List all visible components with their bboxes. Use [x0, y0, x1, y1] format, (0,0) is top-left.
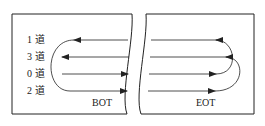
left-panel-frame	[12, 14, 132, 114]
track-label: 1 道	[27, 35, 45, 45]
track-label: 0 道	[27, 69, 45, 79]
eot-label: EOT	[196, 98, 215, 108]
bot-turn-arc	[51, 40, 74, 91]
track-label: 3 道	[27, 52, 45, 62]
bot-label: BOT	[92, 98, 112, 108]
tape-track-diagram	[0, 0, 265, 126]
track-label: 2 道	[27, 86, 45, 96]
